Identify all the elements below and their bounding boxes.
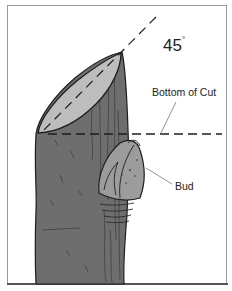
angle-value: 45: [163, 36, 182, 55]
bottom-of-cut-label: Bottom of Cut: [152, 86, 216, 98]
pruning-illustration: [0, 0, 232, 291]
bud-label: Bud: [175, 180, 194, 192]
bottom-of-cut-leader: [161, 102, 176, 133]
bud-leader: [146, 168, 172, 184]
degree-symbol: °: [182, 35, 185, 44]
angle-label: 45°: [163, 36, 185, 56]
